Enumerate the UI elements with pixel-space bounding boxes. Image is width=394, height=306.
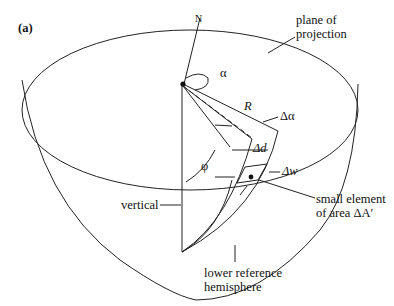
origin-point bbox=[180, 81, 185, 86]
panel-label: (a) bbox=[18, 22, 33, 35]
radius-line bbox=[183, 84, 278, 131]
alpha-label: α bbox=[220, 67, 227, 80]
vertical-label: vertical bbox=[121, 199, 158, 212]
element-label-1: small element bbox=[316, 193, 386, 206]
delta-w-label: Δw bbox=[282, 165, 298, 178]
delta-d-label: Δd bbox=[253, 142, 267, 155]
delta-alpha-label: Δα bbox=[280, 110, 295, 123]
plane-label-2: projection bbox=[296, 28, 347, 41]
great-circle-1 bbox=[182, 139, 252, 252]
north-label: N bbox=[195, 12, 202, 25]
radius-label: R bbox=[244, 100, 252, 113]
hemisphere-label-2: hemisphere bbox=[204, 281, 262, 294]
element-label-2: of area ΔA′ bbox=[316, 207, 373, 220]
phi-label: φ bbox=[201, 160, 208, 173]
hemisphere-diagram bbox=[0, 0, 394, 306]
plane-label-1: plane of bbox=[296, 14, 337, 27]
element-center-point bbox=[249, 175, 254, 180]
hemisphere-label-1: lower reference bbox=[204, 267, 282, 280]
projection-plane-ellipse bbox=[22, 30, 358, 190]
